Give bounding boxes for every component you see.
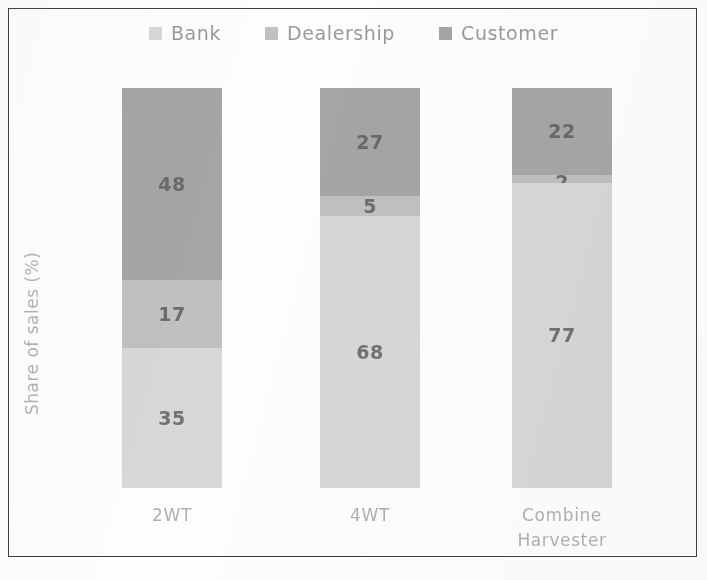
bar-group-2wt[interactable]: 48 17 35 [122,88,222,488]
bar-segment-customer-4wt[interactable]: 27 [320,88,420,196]
legend-label-bank: Bank [171,22,221,44]
x-axis-labels: 2WT 4WT Combine Harvester [62,503,682,563]
bar-segment-customer-2wt[interactable]: 48 [122,88,222,280]
bar-segment-customer-combine-harvester[interactable]: 22 [512,88,612,175]
bar-value-label: 68 [356,343,383,362]
bar-segment-bank-combine-harvester[interactable]: 77 [512,183,612,488]
bar-value-label: 22 [548,122,575,141]
plot-area: 48 17 35 27 5 68 22 2 [62,88,682,488]
chart-page: Bank Dealership Customer Share of sales … [0,0,707,580]
x-axis-label-line: 2WT [102,503,242,528]
legend-swatch-icon-customer [439,27,452,40]
legend-item-customer[interactable]: Customer [439,22,558,44]
legend-item-bank[interactable]: Bank [149,22,221,44]
bar-group-4wt[interactable]: 27 5 68 [320,88,420,488]
chart-legend: Bank Dealership Customer [0,22,707,44]
legend-item-dealership[interactable]: Dealership [265,22,395,44]
bar-value-label: 35 [158,409,185,428]
x-axis-label-2wt: 2WT [102,503,242,528]
x-axis-label-line: Harvester [492,528,632,553]
bar-value-label: 77 [548,326,575,345]
x-axis-label-combine-harvester: Combine Harvester [492,503,632,552]
x-axis-label-line: 4WT [300,503,440,528]
bar-segment-dealership-4wt[interactable]: 5 [320,196,420,216]
bar-segment-dealership-2wt[interactable]: 17 [122,280,222,348]
bar-segment-dealership-combine-harvester[interactable]: 2 [512,175,612,183]
bar-segment-bank-4wt[interactable]: 68 [320,216,420,488]
x-axis-label-line: Combine [492,503,632,528]
bar-value-label: 17 [158,305,185,324]
legend-swatch-icon-bank [149,27,162,40]
y-axis-title: Share of sales (%) [22,155,42,415]
legend-label-dealership: Dealership [287,22,395,44]
bar-value-label: 5 [363,197,377,216]
bar-value-label: 48 [158,175,185,194]
bar-value-label: 27 [356,133,383,152]
bar-group-combine-harvester[interactable]: 22 2 77 [512,88,612,488]
bar-segment-bank-2wt[interactable]: 35 [122,348,222,488]
legend-label-customer: Customer [461,22,558,44]
x-axis-label-4wt: 4WT [300,503,440,528]
legend-swatch-icon-dealership [265,27,278,40]
